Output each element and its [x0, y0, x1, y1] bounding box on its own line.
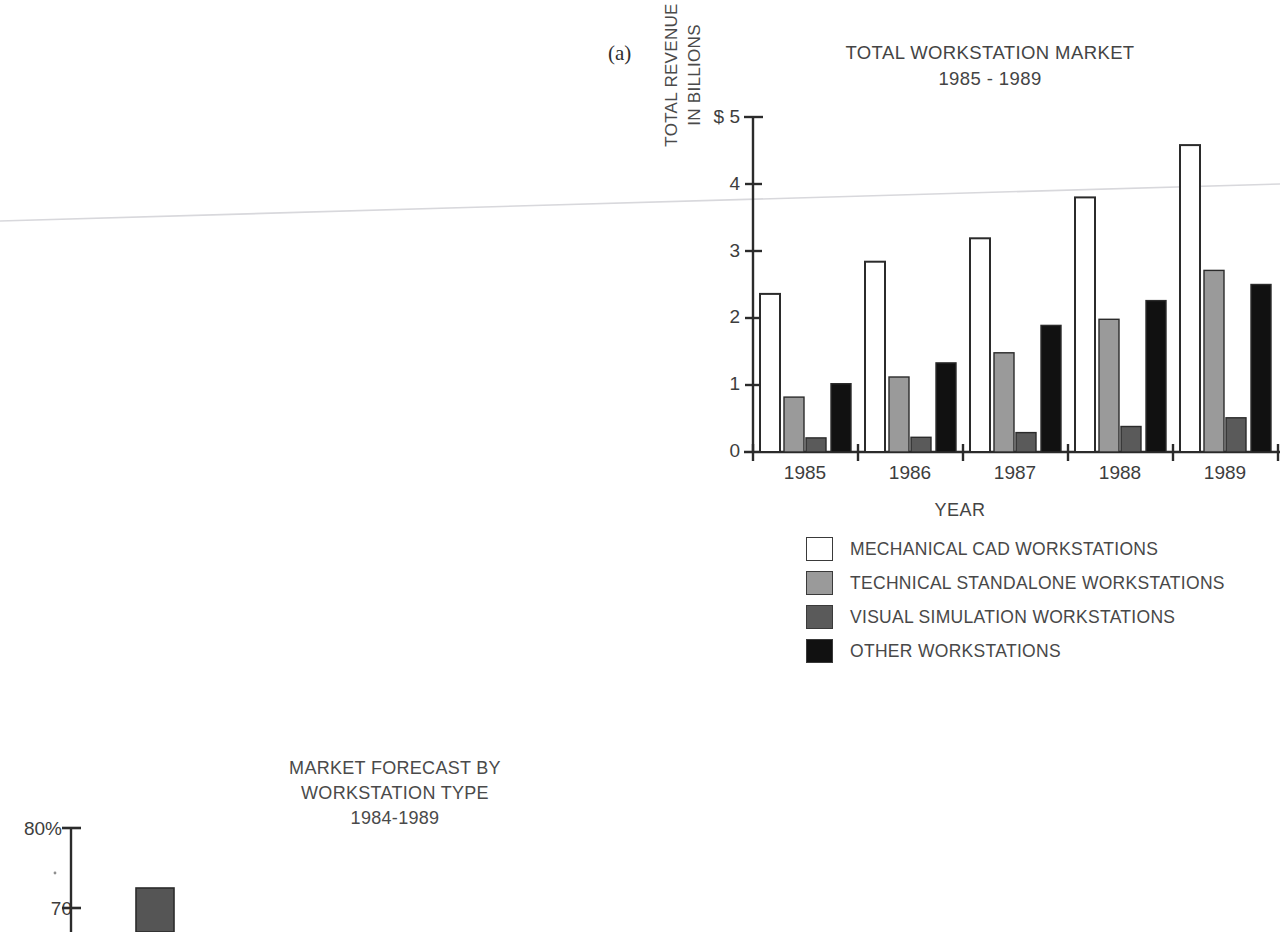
legend-item-visual-simulation: VISUAL SIMULATION WORKSTATIONS: [806, 600, 1225, 634]
legend-item-other: OTHER WORKSTATIONS: [806, 634, 1225, 668]
chart-a-legend: MECHANICAL CAD WORKSTATIONS TECHNICAL ST…: [806, 532, 1225, 668]
chart-a-x-axis-title: YEAR: [934, 500, 985, 521]
bar-1986-2: [889, 377, 909, 452]
chart-a-bars: [760, 145, 1271, 452]
bar-1985-2: [784, 397, 804, 452]
legend-swatch-mechanical-cad: [806, 537, 833, 561]
bar-1987-4: [1041, 325, 1061, 452]
legend-swatch-visual-simulation: [806, 605, 833, 629]
x-tick-1986: 1986: [865, 462, 955, 484]
chart-market-forecast-by-workstation-type: MARKET FORECAST BY WORKSTATION TYPE 1984…: [0, 700, 1280, 932]
x-tick-1987: 1987: [970, 462, 1060, 484]
x-tick-1985: 1985: [760, 462, 850, 484]
legend-item-mechanical-cad: MECHANICAL CAD WORKSTATIONS: [806, 532, 1225, 566]
bar-1987-2: [994, 353, 1014, 452]
legend-label-mechanical-cad: MECHANICAL CAD WORKSTATIONS: [850, 539, 1158, 560]
legend-label-technical-standalone: TECHNICAL STANDALONE WORKSTATIONS: [850, 573, 1225, 594]
bar-1987-3: [1016, 433, 1036, 452]
chart-total-workstation-market: TOTAL WORKSTATION MARKET 1985 - 1989 TOT…: [0, 0, 1280, 700]
legend-swatch-technical-standalone: [806, 571, 833, 595]
legend-item-technical-standalone: TECHNICAL STANDALONE WORKSTATIONS: [806, 566, 1225, 600]
chart-b-plot-area: [0, 700, 500, 932]
chart-b-bar-1: [136, 888, 174, 932]
bar-1985-1: [760, 294, 780, 452]
bar-1985-3: [806, 438, 826, 452]
bar-1986-4: [936, 363, 956, 452]
x-tick-1989: 1989: [1180, 462, 1270, 484]
bar-1989-4: [1251, 285, 1271, 453]
bar-1989-3: [1226, 418, 1246, 452]
bar-1989-1: [1180, 145, 1200, 452]
bar-1989-2: [1204, 270, 1224, 452]
bar-1988-3: [1121, 427, 1141, 453]
chart-a-plot-area: [0, 0, 1280, 470]
legend-label-visual-simulation: VISUAL SIMULATION WORKSTATIONS: [850, 607, 1175, 628]
bar-1985-4: [831, 384, 851, 452]
bar-1988-1: [1075, 197, 1095, 452]
legend-swatch-other: [806, 639, 833, 663]
bar-1986-1: [865, 262, 885, 452]
x-tick-1988: 1988: [1075, 462, 1165, 484]
legend-label-other: OTHER WORKSTATIONS: [850, 641, 1061, 662]
bar-1988-4: [1146, 301, 1166, 452]
bar-1988-2: [1099, 319, 1119, 452]
bar-1986-3: [911, 437, 931, 452]
bar-1987-1: [970, 238, 990, 452]
